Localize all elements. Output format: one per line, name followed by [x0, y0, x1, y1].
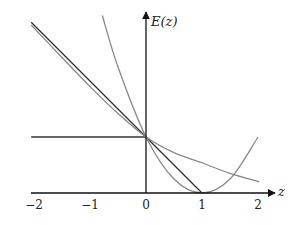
- x-tick-label: 2: [254, 198, 262, 212]
- x-tick-labels: −2−1012: [25, 198, 262, 212]
- x-tick-label: 1: [198, 198, 206, 212]
- convex-curve: [31, 25, 259, 182]
- series-layer: [31, 15, 259, 193]
- x-tick-label: 0: [142, 198, 150, 212]
- parabola: [102, 15, 258, 193]
- tangent-line: [31, 22, 202, 193]
- x-axis-label: z: [277, 184, 285, 199]
- x-tick-label: −1: [81, 198, 99, 212]
- chart: −2−1012 z E(z): [0, 0, 298, 225]
- y-axis-label: E(z): [150, 14, 177, 29]
- x-tick-label: −2: [25, 198, 43, 212]
